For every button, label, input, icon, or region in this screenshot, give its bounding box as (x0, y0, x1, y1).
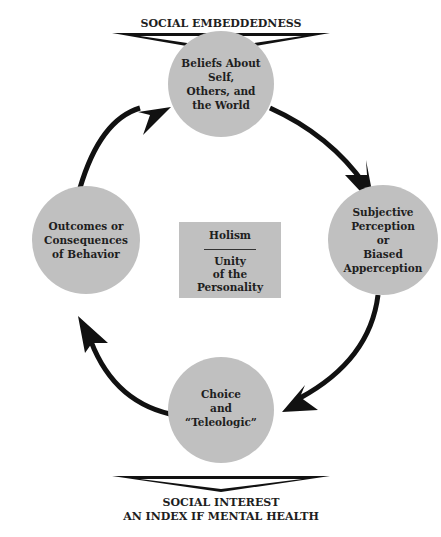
arrow-outcomes-to-beliefs (80, 108, 140, 188)
holism-subtitle-line2: of the (179, 268, 281, 281)
node-beliefs-line1: Beliefs About Self, (168, 56, 274, 84)
holism-subtitle-line3: Personality (179, 281, 281, 294)
node-outcomes-line1: Outcomes or (44, 219, 128, 233)
holism-divider (204, 249, 256, 250)
node-perception-line2: or (323, 233, 441, 247)
node-perception-line1: Subjective Perception (323, 205, 441, 233)
social-embeddedness-label: SOCIAL EMBEDDEDNESS (110, 17, 332, 31)
social-interest-line2: AN INDEX IF MENTAL HEALTH (90, 510, 352, 524)
holism-subtitle-line1: Unity (179, 255, 281, 268)
node-choice: Choice and “Teleologic” (168, 366, 274, 450)
node-beliefs-line3: the World (168, 98, 274, 112)
holism-subtitle: Unity of the Personality (179, 255, 281, 294)
arrow-perception-to-choice (300, 295, 378, 398)
arrow-beliefs-to-perception (270, 108, 365, 185)
node-choice-line1: Choice (185, 387, 257, 401)
node-beliefs: Beliefs About Self, Others, and the Worl… (168, 42, 274, 126)
social-interest-label: SOCIAL INTEREST AN INDEX IF MENTAL HEALT… (90, 496, 352, 524)
holism-title: Holism (179, 222, 281, 242)
node-perception: Subjective Perception or Biased Appercep… (323, 198, 441, 282)
node-choice-line3: “Teleologic” (185, 415, 257, 429)
node-outcomes-line2: Consequences (44, 233, 128, 247)
node-choice-line2: and (185, 401, 257, 415)
node-outcomes: Outcomes or Consequences of Behavior (33, 198, 139, 282)
node-perception-line3: Biased Apperception (323, 247, 441, 275)
arrow-choice-to-outcomes (88, 333, 170, 414)
arrowhead-top-icon (138, 107, 171, 135)
social-interest-line1: SOCIAL INTEREST (90, 496, 352, 510)
bottom-chevron-banner (112, 476, 330, 492)
node-outcomes-line3: of Behavior (44, 247, 128, 261)
holism-box: Holism Unity of the Personality (179, 222, 281, 298)
node-beliefs-line2: Others, and (168, 84, 274, 98)
